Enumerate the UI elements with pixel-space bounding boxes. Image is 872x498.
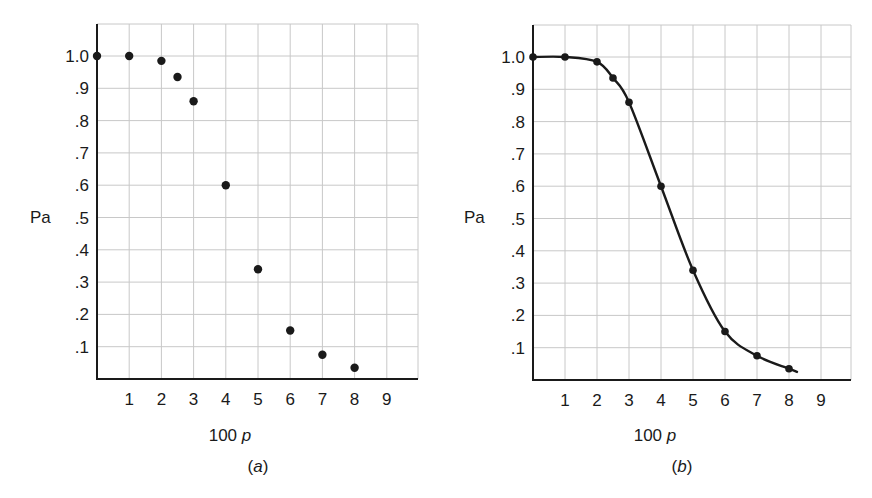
y-tick-labels-b: .1.2.3.4.5.6.7.8.91.0	[501, 48, 525, 358]
data-point	[609, 74, 617, 82]
x-tick-labels-a: 123456789	[124, 390, 391, 409]
x-tick-label: 9	[382, 390, 391, 409]
panel-caption-letter-a: a	[253, 457, 262, 476]
x-tick-label: 3	[189, 390, 198, 409]
y-tick-label: .8	[511, 113, 525, 132]
y-tick-label: .9	[511, 80, 525, 99]
y-tick-label: 1.0	[501, 48, 525, 67]
panel-caption-letter-b: b	[677, 457, 686, 476]
data-point	[157, 57, 165, 65]
data-point	[529, 53, 537, 61]
grid-b	[533, 25, 851, 380]
data-point	[173, 73, 181, 81]
data-point	[561, 53, 569, 61]
axes-b	[532, 25, 851, 381]
data-point	[189, 97, 197, 105]
data-point	[657, 182, 665, 190]
y-tick-label: .2	[75, 305, 89, 324]
x-tick-label: 6	[720, 391, 729, 410]
y-axis-label-a: Pa	[30, 208, 51, 227]
x-tick-labels-b: 123456789	[560, 391, 825, 410]
data-point	[254, 265, 262, 273]
x-axis-label-var-a: p	[241, 426, 251, 445]
y-tick-label: .4	[511, 242, 525, 261]
x-tick-label: 4	[221, 390, 230, 409]
line-plot-b: .1.2.3.4.5.6.7.8.91.0 123456789 Pa 100 p…	[436, 0, 872, 498]
scatter-plot-a: .1.2.3.4.5.6.7.8.91.0 123456789 Pa 100 p…	[0, 0, 436, 498]
x-axis-label-num-a: 100	[209, 426, 237, 445]
y-tick-label: .9	[75, 79, 89, 98]
y-tick-label: .4	[75, 241, 89, 260]
panel-caption-a: (a)	[248, 457, 269, 476]
data-point	[785, 365, 793, 373]
y-tick-label: 1.0	[65, 47, 89, 66]
x-tick-label: 9	[816, 391, 825, 410]
x-tick-label: 4	[656, 391, 665, 410]
x-axis-label-var-b: p	[666, 426, 676, 445]
data-point	[625, 98, 633, 106]
y-tick-label: .3	[511, 274, 525, 293]
x-axis-label-b: 100 p	[634, 426, 677, 445]
x-tick-label: 5	[253, 390, 262, 409]
y-tick-labels-a: .1.2.3.4.5.6.7.8.91.0	[65, 47, 89, 357]
panel-caption-b: (b)	[672, 457, 693, 476]
y-tick-label: .1	[75, 338, 89, 357]
x-tick-label: 7	[318, 390, 327, 409]
y-tick-label: .3	[75, 273, 89, 292]
x-tick-label: 5	[688, 391, 697, 410]
y-tick-label: .1	[511, 339, 525, 358]
data-point	[593, 58, 601, 66]
data-point	[286, 326, 294, 334]
x-tick-label: 6	[285, 390, 294, 409]
y-tick-label: .7	[75, 144, 89, 163]
x-tick-label: 7	[752, 391, 761, 410]
x-tick-label: 8	[350, 390, 359, 409]
data-point	[689, 266, 697, 274]
data-point	[318, 351, 326, 359]
x-tick-label: 1	[560, 391, 569, 410]
x-tick-label: 8	[784, 391, 793, 410]
x-axis-label-a: 100 p	[209, 426, 252, 445]
data-point	[721, 328, 729, 336]
data-point	[753, 352, 761, 360]
y-tick-label: .6	[511, 177, 525, 196]
x-tick-label: 2	[592, 391, 601, 410]
x-tick-label: 1	[124, 390, 133, 409]
y-tick-label: .8	[75, 112, 89, 131]
axes-a	[96, 24, 418, 380]
data-point	[350, 363, 358, 371]
data-point	[125, 52, 133, 60]
x-axis-label-num-b: 100	[634, 426, 662, 445]
grid-a	[97, 24, 418, 379]
data-point	[222, 181, 230, 189]
x-tick-label: 3	[624, 391, 633, 410]
chart-panel-a: .1.2.3.4.5.6.7.8.91.0 123456789 Pa 100 p…	[0, 0, 436, 498]
y-tick-label: .2	[511, 306, 525, 325]
chart-panel-b: .1.2.3.4.5.6.7.8.91.0 123456789 Pa 100 p…	[436, 0, 872, 498]
data-point	[93, 52, 101, 60]
y-tick-label: .5	[75, 209, 89, 228]
y-tick-label: .6	[75, 176, 89, 195]
y-axis-label-b: Pa	[464, 208, 485, 227]
x-tick-label: 2	[157, 390, 166, 409]
y-tick-label: .7	[511, 145, 525, 164]
y-tick-label: .5	[511, 210, 525, 229]
